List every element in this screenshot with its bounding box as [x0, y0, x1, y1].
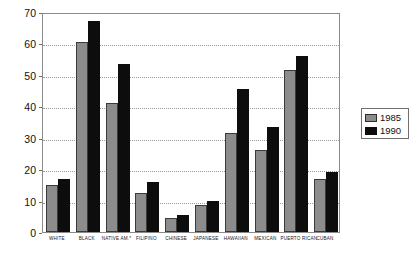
bar-1990: [147, 182, 159, 232]
bar-1985: [46, 185, 58, 232]
legend-swatch-1985-icon: [365, 114, 377, 122]
y-tick-label: 20: [24, 165, 36, 176]
y-tick-mark: [39, 13, 42, 14]
bars-layer: [43, 14, 339, 232]
legend-label-1985: 1985: [380, 113, 401, 123]
legend-item-1990: 1990: [365, 125, 401, 136]
bar-1985: [284, 70, 296, 232]
bar-1985: [225, 133, 237, 232]
y-tick-label: 60: [24, 39, 36, 50]
bar-group: [195, 14, 219, 232]
x-tick-label: MEXICAN: [251, 236, 281, 242]
bar-1990: [326, 172, 338, 232]
y-tick-mark: [39, 233, 42, 234]
x-tick-label: PUERTO RICAN: [280, 236, 310, 242]
y-tick-label: 40: [24, 102, 36, 113]
x-tick-label: JAPANESE: [191, 236, 221, 242]
x-tick-label: CUBAN: [310, 236, 340, 242]
bar-group: [284, 14, 308, 232]
bar-group: [255, 14, 279, 232]
bar-1990: [118, 64, 130, 232]
bar-1990: [267, 127, 279, 232]
bar-group: [314, 14, 338, 232]
x-axis: WHITEBLACKNATIVE AM.*FILIPINOCHINESEJAPA…: [42, 236, 340, 252]
x-tick-label: BLACK: [72, 236, 102, 242]
legend-label-1990: 1990: [380, 126, 401, 136]
x-tick-label: CHINESE: [161, 236, 191, 242]
bar-1985: [106, 103, 118, 232]
bar-1990: [88, 21, 100, 232]
y-tick-mark: [39, 44, 42, 45]
bar-group: [76, 14, 100, 232]
bar-group: [106, 14, 130, 232]
legend-swatch-1990-icon: [365, 127, 377, 135]
bar-1985: [195, 205, 207, 232]
bar-group: [135, 14, 159, 232]
bar-group: [225, 14, 249, 232]
bar-1985: [76, 42, 88, 232]
bar-1990: [296, 56, 308, 232]
y-tick-mark: [39, 107, 42, 108]
bar-1985: [255, 150, 267, 232]
y-tick-mark: [39, 76, 42, 77]
x-tick-label: NATIVE AM.*: [102, 236, 132, 242]
bar-1990: [58, 179, 70, 232]
plot-area: [42, 13, 340, 233]
bar-1990: [237, 89, 249, 232]
bar-group: [165, 14, 189, 232]
y-tick-label: 30: [24, 134, 36, 145]
x-tick-label: FILIPINO: [131, 236, 161, 242]
bar-1990: [177, 215, 189, 232]
bar-1990: [207, 201, 219, 232]
y-tick-mark: [39, 170, 42, 171]
x-tick-label: WHITE: [42, 236, 72, 242]
bar-group: [46, 14, 70, 232]
y-axis: 010203040506070: [0, 0, 40, 261]
y-tick-mark: [39, 202, 42, 203]
bar-1985: [314, 179, 326, 232]
x-tick-label: HAWAIIAN: [221, 236, 251, 242]
bar-1985: [165, 218, 177, 232]
y-tick-mark: [39, 139, 42, 140]
y-tick-label: 70: [24, 8, 36, 19]
bar-chart-figure: 010203040506070 WHITEBLACKNATIVE AM.*FIL…: [0, 0, 417, 261]
chart-legend: 1985 1990: [361, 108, 409, 139]
y-tick-label: 50: [24, 71, 36, 82]
legend-item-1985: 1985: [365, 112, 401, 123]
y-tick-label: 0: [30, 228, 36, 239]
y-tick-label: 10: [24, 197, 36, 208]
bar-1985: [135, 193, 147, 232]
